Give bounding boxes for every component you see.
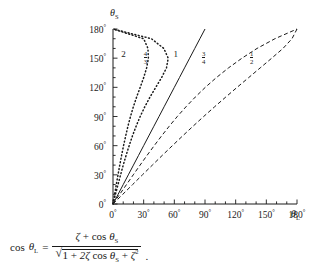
curve-label-1: 1: [173, 50, 178, 59]
y-tick-label: 90°: [0, 112, 106, 124]
y-tick-label: 30°: [0, 170, 106, 182]
equation-lhs-cos: cos: [10, 241, 25, 253]
curve-1: [113, 29, 205, 204]
x-tick-label: 60°: [158, 209, 190, 221]
curve-label-3-4: 34: [202, 50, 205, 65]
x-tick-label: 0°: [97, 209, 129, 221]
y-tick-label: 0°: [0, 199, 106, 211]
equation-period: .: [145, 250, 148, 264]
equation-fraction: ζ + cos θS 1 + 2ζ cos θS + ζ2: [52, 230, 141, 264]
equation-lhs-theta: θL: [29, 240, 39, 254]
curve-label-4-3: 43: [144, 50, 147, 65]
x-axis-title: θL: [291, 209, 300, 222]
equation-denominator: 1 + 2ζ cos θS + ζ2: [52, 246, 141, 264]
equation-equals: =: [42, 241, 48, 253]
curve-label-2: 2: [121, 50, 126, 59]
x-tick-label: 150°: [250, 209, 282, 221]
y-tick-label: 60°: [0, 141, 106, 153]
y-tick-label: 180°: [0, 24, 106, 36]
equation-block: cos θL = ζ + cos θS 1 + 2ζ cos θS + ζ2: [10, 230, 260, 275]
x-tick-label: 120°: [220, 209, 252, 221]
x-tick-label: 90°: [189, 209, 221, 221]
x-tick-label: 30°: [128, 209, 160, 221]
y-axis-title: θS: [110, 8, 119, 21]
curve-label-1-2: 12: [250, 50, 253, 65]
y-tick-label: 120°: [0, 82, 106, 94]
y-tick-label: 150°: [0, 53, 106, 65]
radical: 1 + 2ζ cos θS + ζ2: [55, 248, 138, 264]
equation-numerator: ζ + cos θS: [71, 230, 124, 246]
